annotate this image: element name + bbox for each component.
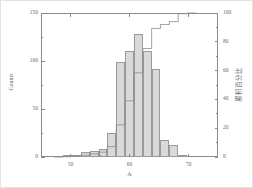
right-tick <box>215 157 219 158</box>
cumulative-step-line <box>41 13 218 157</box>
right-tick-label: 0 <box>223 154 243 160</box>
plot-area <box>41 13 218 157</box>
left-tick-label: 0 <box>13 154 38 160</box>
left-tick <box>41 157 45 158</box>
right-minor-tick <box>216 85 218 86</box>
bottom-tick <box>129 154 130 158</box>
right-tick <box>215 70 219 71</box>
top-tick <box>188 13 189 17</box>
left-tick-label: 150 <box>13 10 38 16</box>
top-tick <box>70 13 71 17</box>
left-minor-tick <box>41 133 43 134</box>
left-axis-title: Counts <box>8 62 14 102</box>
right-tick <box>215 41 219 42</box>
right-minor-tick <box>216 142 218 143</box>
right-tick <box>215 13 219 14</box>
top-tick <box>129 13 130 17</box>
left-tick-label: 50 <box>13 106 38 112</box>
right-tick-label: 20 <box>223 125 243 131</box>
left-tick <box>41 61 45 62</box>
bottom-minor-tick <box>100 155 101 157</box>
left-tick <box>41 13 45 14</box>
right-minor-tick <box>216 56 218 57</box>
right-tick <box>215 99 219 100</box>
bottom-axis-title: A <box>41 171 218 177</box>
bottom-tick-label: 60 <box>118 162 142 168</box>
right-minor-tick <box>216 27 218 28</box>
bottom-tick <box>70 154 71 158</box>
bottom-tick-label: 50 <box>59 162 83 168</box>
right-tick-label: 80 <box>223 39 243 45</box>
bottom-minor-tick <box>159 155 160 157</box>
right-tick <box>215 128 219 129</box>
left-tick <box>41 109 45 110</box>
left-minor-tick <box>41 37 43 38</box>
left-minor-tick <box>41 85 43 86</box>
left-tick-label: 100 <box>13 58 38 64</box>
bottom-tick-label: 70 <box>177 162 201 168</box>
right-tick-label: 100 <box>223 10 243 16</box>
bottom-minor-tick <box>188 155 189 157</box>
histogram-figure: 050100150 020406080100 506070 Counts 累积百… <box>0 0 253 188</box>
right-axis-title: 累积百分比 <box>233 64 243 104</box>
right-minor-tick <box>216 113 218 114</box>
